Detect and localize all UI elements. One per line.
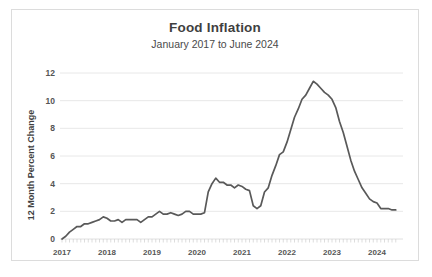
y-axis-title: 12 Month Percent Change	[26, 110, 36, 221]
chart-card: Food Inflation January 2017 to June 2024…	[11, 9, 419, 261]
y-tick-label: 4	[50, 179, 55, 189]
line-chart-plot: 024681012 201720182019202020212022202320…	[12, 10, 420, 262]
x-tick-label: 2024	[368, 248, 386, 257]
data-series-line	[62, 81, 396, 239]
x-tick-label: 2017	[53, 248, 71, 257]
x-tick-label: 2019	[143, 248, 161, 257]
x-axis-tickmarks	[62, 239, 396, 243]
x-tick-label: 2022	[278, 248, 296, 257]
y-tick-label: 6	[50, 151, 55, 161]
y-tick-label: 8	[50, 123, 55, 133]
y-tick-label: 10	[46, 96, 56, 106]
y-tick-label: 0	[50, 234, 55, 244]
x-tick-label: 2018	[98, 248, 116, 257]
x-tick-label: 2023	[323, 248, 341, 257]
x-tick-label: 2020	[188, 248, 206, 257]
x-tick-label: 2021	[233, 248, 251, 257]
gridlines-group	[60, 73, 403, 239]
y-tick-label: 12	[46, 68, 56, 78]
y-axis-tick-labels: 024681012	[46, 68, 56, 244]
y-tick-label: 2	[50, 206, 55, 216]
x-axis-tick-labels: 20172018201920202021202220232024	[53, 248, 386, 257]
